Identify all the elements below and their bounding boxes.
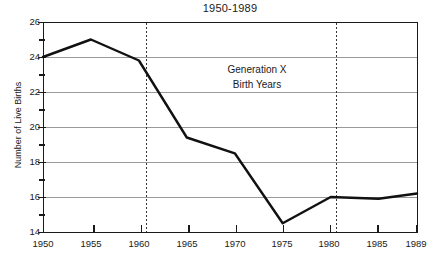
live-births-series-line [43, 40, 417, 224]
y-major-ticks [38, 23, 46, 233]
gridlines [44, 58, 418, 198]
plot-area [0, 0, 432, 272]
line-chart: 1950-1989 Number of Live Births 26 24 22… [0, 0, 432, 272]
